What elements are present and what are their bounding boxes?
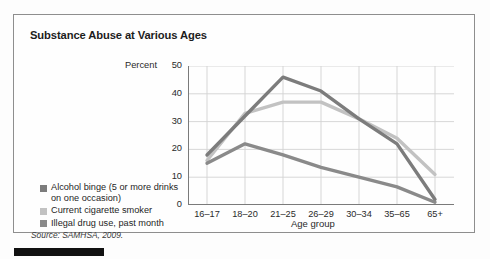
x-axis-title: Age group: [291, 218, 335, 229]
y-axis-tick-label: 10: [158, 171, 182, 181]
plot-area: [188, 66, 454, 205]
y-axis-tick-label: 20: [158, 143, 182, 153]
x-axis-tick-label: 35–65: [377, 209, 417, 219]
x-axis-tick-label: 18–20: [225, 209, 265, 219]
legend-item-label: Illegal drug use, past month: [51, 218, 164, 229]
legend-item-label: Current cigarette smoker: [51, 205, 152, 216]
legend-item: Alcohol binge (5 or more drinks on one o…: [40, 182, 180, 204]
y-axis-tick-label: 50: [158, 60, 182, 70]
chart-legend: Alcohol binge (5 or more drinks on one o…: [40, 182, 180, 230]
y-axis-tick-label: 40: [158, 88, 182, 98]
line-chart-svg: [188, 66, 454, 205]
x-axis-tick-label: 16–17: [187, 209, 227, 219]
legend-swatch-icon: [40, 220, 47, 227]
y-axis-tick-label: 30: [158, 116, 182, 126]
legend-swatch-icon: [40, 208, 47, 215]
x-axis-tick-label: 30–34: [339, 209, 379, 219]
legend-item: Illegal drug use, past month: [40, 218, 180, 229]
legend-item-label: Alcohol binge (5 or more drinks on one o…: [51, 182, 180, 204]
page-title: Substance Abuse at Various Ages: [30, 29, 207, 41]
y-axis-title: Percent: [125, 60, 157, 70]
figure-panel: Substance Abuse at Various Ages Percent …: [13, 14, 475, 233]
source-note: Source: SAMHSA, 2009.: [31, 230, 123, 240]
x-axis-tick-label: 65+: [415, 209, 455, 219]
legend-item: Current cigarette smoker: [40, 205, 180, 216]
legend-swatch-icon: [40, 185, 47, 192]
page-footer-bar: [14, 248, 104, 256]
